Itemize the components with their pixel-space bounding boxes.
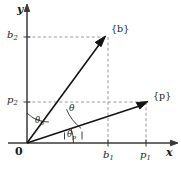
tick-label-p1: p1 [140,150,151,160]
y-axis-arrowhead [24,4,29,12]
vector-p-shaft [27,106,141,144]
vector-b [27,36,106,143]
diagram-canvas [0,0,181,173]
x-axis-arrowhead [171,140,179,145]
projection-lines [27,37,146,143]
tick-label-p2: p2 [7,95,18,105]
tick-label-b2: b2 [7,30,18,40]
vector-b-arrowhead [95,36,105,47]
y-axis-label: y [17,4,23,15]
vector-label-p: {p} [153,91,171,101]
tick-label-b1: b1 [103,150,114,160]
vector-label-b: {b} [111,24,129,34]
angle-label-theta-b: θb [35,116,44,125]
vector-angle-diagram: y x 0 b2 p2 b1 p1 {b} {p} θ θb θp [0,0,181,173]
axes [8,4,178,146]
x-axis-label: x [166,147,173,158]
angle-label-theta: θ [69,104,74,113]
origin-label: 0 [15,146,23,157]
tick-marks [24,37,147,147]
vector-b-shaft [27,44,100,144]
angle-label-theta-p: θp [67,130,76,139]
